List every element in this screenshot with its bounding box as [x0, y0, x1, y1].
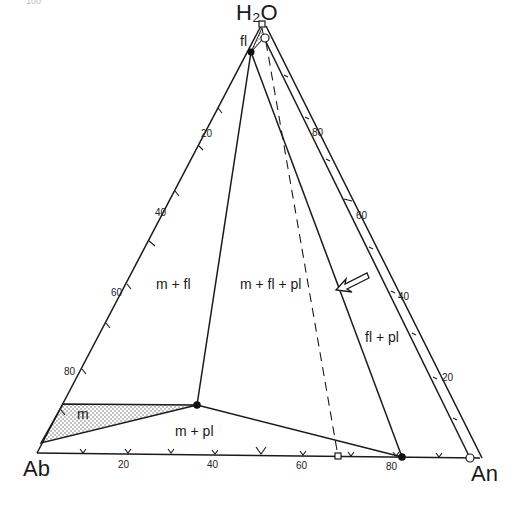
tie-line-fl-pl — [251, 52, 402, 457]
right-inner-edge — [264, 38, 470, 458]
m-filled-point — [193, 401, 201, 409]
left-tick-80: 80 — [64, 366, 75, 377]
right-tick-80: 80 — [312, 127, 323, 138]
vertex-label-an: An — [471, 461, 498, 487]
fl-open-point — [261, 34, 269, 42]
left-tick-60: 60 — [111, 287, 122, 298]
left-tick-20: 20 — [201, 128, 212, 139]
ternary-diagram — [0, 0, 519, 509]
right-tick-40: 40 — [398, 291, 409, 302]
vertex-label-h2o: H₂O — [236, 0, 278, 26]
right-edge — [266, 26, 482, 458]
left-edge — [37, 24, 262, 453]
base-edge — [37, 453, 480, 458]
vertex-label-ab: Ab — [23, 456, 50, 482]
fl-filled-point — [248, 49, 255, 56]
base-tick-40: 40 — [207, 459, 218, 470]
base-tick-20: 20 — [118, 459, 129, 470]
right-tick-60: 60 — [356, 210, 367, 221]
base-tick-80: 80 — [386, 461, 397, 472]
field-label-m-fl-pl: m + fl + pl — [240, 276, 301, 292]
field-label-fl-pl: fl + pl — [365, 329, 399, 345]
arrow-icon — [336, 273, 369, 292]
right-tick-20: 20 — [442, 372, 453, 383]
base-tick-60: 60 — [296, 460, 307, 471]
field-label-m-pl: m + pl — [175, 423, 214, 439]
left-tick-40: 40 — [155, 207, 166, 218]
field-label-m: m — [77, 406, 89, 422]
tie-line-m-pl — [197, 405, 402, 457]
m-field-region — [41, 404, 197, 443]
base-square-marker — [335, 453, 341, 459]
tie-line-fl-m — [197, 52, 251, 405]
pl-filled-point — [398, 453, 406, 461]
dashed-composition-line — [266, 42, 338, 456]
field-label-fl: fl — [240, 33, 247, 49]
field-label-m-fl: m + fl — [156, 276, 191, 292]
